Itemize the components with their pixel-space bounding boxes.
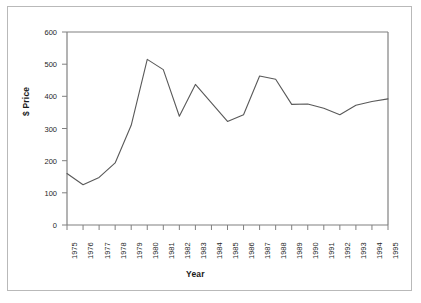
x-tick-label-1982: 1982 <box>183 242 192 259</box>
x-tick-label-1989: 1989 <box>295 242 304 259</box>
x-tick-label-1977: 1977 <box>103 242 112 259</box>
line-chart-svg <box>0 0 421 303</box>
y-tick-label-400: 400 <box>31 92 57 101</box>
axes-group <box>67 32 388 225</box>
y-tick-label-100: 100 <box>31 189 57 198</box>
x-tick-label-1983: 1983 <box>199 242 208 259</box>
y-tick-label-500: 500 <box>31 60 57 69</box>
y-tick-marks <box>62 32 67 225</box>
x-tick-label-1985: 1985 <box>231 242 240 259</box>
y-tick-label-300: 300 <box>31 125 57 134</box>
x-tick-label-1980: 1980 <box>151 242 160 259</box>
y-axis-title: $ Price <box>21 87 31 116</box>
price-series-line <box>67 59 388 184</box>
x-axis-title: Year <box>186 269 205 279</box>
y-tick-label-200: 200 <box>31 157 57 166</box>
x-tick-label-1979: 1979 <box>135 242 144 259</box>
x-tick-label-1991: 1991 <box>327 242 336 259</box>
x-tick-label-1987: 1987 <box>263 242 272 259</box>
x-tick-label-1975: 1975 <box>70 242 79 259</box>
x-tick-label-1990: 1990 <box>311 242 320 259</box>
x-tick-label-1984: 1984 <box>215 242 224 259</box>
x-tick-label-1978: 1978 <box>119 242 128 259</box>
chart-figure: 0 100 200 300 400 500 600 19751976197719… <box>0 0 421 303</box>
x-tick-marks <box>67 225 388 230</box>
x-tick-label-1988: 1988 <box>279 242 288 259</box>
x-tick-label-1995: 1995 <box>391 242 400 259</box>
y-tick-label-0: 0 <box>31 221 57 230</box>
x-tick-label-1976: 1976 <box>86 242 95 259</box>
plot-area: 0 100 200 300 400 500 600 19751976197719… <box>0 0 421 303</box>
x-tick-label-1993: 1993 <box>359 242 368 259</box>
x-tick-label-1986: 1986 <box>247 242 256 259</box>
y-tick-label-600: 600 <box>31 28 57 37</box>
x-tick-label-1992: 1992 <box>343 242 352 259</box>
x-tick-label-1981: 1981 <box>167 242 176 259</box>
x-tick-label-1994: 1994 <box>375 242 384 259</box>
